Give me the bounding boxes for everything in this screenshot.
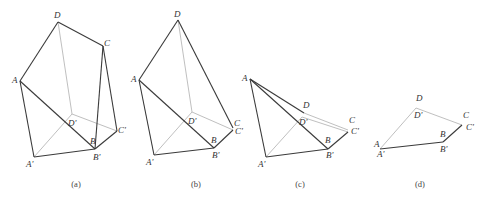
vertex-label: A: [130, 74, 137, 84]
edge-D-Dp: [58, 22, 72, 114]
figure-caption: (d): [415, 179, 425, 189]
edge-Bp-Cp: [95, 131, 117, 149]
edge-D-C: [304, 113, 348, 130]
vertex-label: D: [302, 100, 310, 110]
vertex-label: C': [466, 122, 475, 132]
vertex-label: C': [118, 125, 127, 135]
vertex-label: D': [298, 117, 308, 127]
edge-Ap-Bp: [266, 149, 328, 157]
vertex-label: D: [53, 10, 61, 20]
vertex-label: C: [104, 38, 111, 48]
vertex-label: A: [373, 139, 380, 149]
edge-Bp-Cp: [214, 130, 233, 148]
vertex-label: B': [212, 150, 220, 160]
edge-A-D: [250, 79, 304, 113]
vertex-label: B: [211, 135, 217, 145]
edge-Ap-Dp: [154, 112, 192, 155]
vertex-label: A': [257, 159, 266, 169]
vertex-label: D': [187, 116, 197, 126]
vertex-label: D': [413, 110, 423, 120]
edge-A-Bp: [20, 81, 95, 149]
vertex-label: B: [90, 136, 96, 146]
edge-Bp-Cp: [443, 125, 462, 142]
vertex-label: A': [145, 157, 154, 167]
edge-Dp-Cp: [72, 114, 117, 131]
vertex-label: D': [67, 118, 77, 128]
vertex-label: B': [326, 150, 334, 160]
vertex-label: D: [415, 93, 423, 103]
figure-b: DAD'CC'BB'A'(b): [130, 9, 244, 189]
edge-Dp-Cp: [416, 108, 462, 125]
vertex-label: A': [25, 159, 34, 169]
vertex-label: A: [241, 73, 248, 83]
edge-Ap-Dp: [34, 114, 72, 157]
vertex-label: C: [463, 110, 470, 120]
figure-d: DD'CC'BB'AA'(d): [373, 93, 475, 189]
edge-Dp-Cp: [192, 112, 233, 130]
edge-Ap-Bp: [380, 142, 443, 149]
cube-folding-diagram: DCAD'C'BB'A'(a)DAD'CC'BB'A'(b)ADD'CC'BB'…: [0, 0, 481, 200]
edge-Ap-Dp: [266, 117, 302, 157]
figure-caption: (c): [295, 179, 305, 189]
vertex-label: B: [440, 129, 446, 139]
figure-c: ADD'CC'BB'A'(c): [241, 73, 360, 189]
edge-A-D: [139, 20, 178, 80]
figure-caption: (b): [191, 179, 201, 189]
vertex-label: B: [325, 135, 331, 145]
edge-A-D: [20, 22, 58, 81]
vertex-label: C': [351, 126, 360, 136]
edge-Ap-Bp: [154, 148, 214, 155]
vertex-label: C: [349, 115, 356, 125]
edge-Ap-Dp: [380, 108, 416, 149]
vertex-label: B': [93, 152, 101, 162]
edge-Bp-Cp: [328, 132, 348, 149]
vertex-label: A: [11, 75, 18, 85]
edge-C-Cp: [103, 46, 117, 131]
edge-D-C: [58, 22, 103, 46]
vertex-label: A': [376, 149, 385, 159]
figure-a: DCAD'C'BB'A'(a): [11, 10, 127, 189]
vertex-label: C': [235, 126, 244, 136]
vertex-label: B': [440, 144, 448, 154]
edge-Dp-Cp: [302, 117, 348, 132]
figure-caption: (a): [71, 179, 81, 189]
vertex-label: D: [173, 9, 181, 19]
edge-C-Bp: [95, 46, 103, 149]
edge-Ap-Bp: [34, 149, 95, 157]
